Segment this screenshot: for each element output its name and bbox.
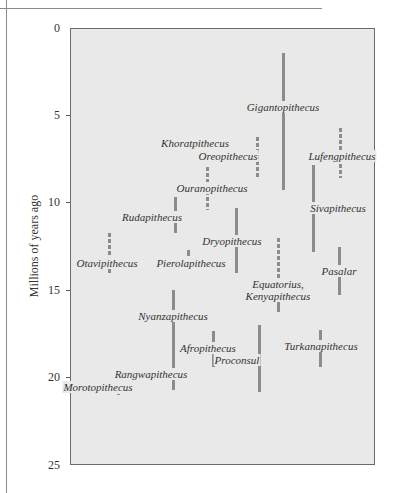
label-sivapithecus: Sivapithecus	[309, 202, 367, 214]
label-kenyapithecus: Kenyapithecus	[245, 290, 312, 302]
y-tick-label-20: 20	[48, 370, 60, 385]
label-gigantopithecus: Gigantopithecus	[246, 101, 321, 113]
label-khoratpithecus: Khoratpithecus	[160, 137, 230, 149]
label-otavipithecus: Otavipithecus	[75, 257, 138, 269]
page-top-rule	[0, 8, 322, 9]
y-tick-label-0: 0	[54, 21, 60, 36]
label-nyanzapithecus: Nyanzapithecus	[137, 310, 209, 322]
label-pierolapithecus: Pierolapithecus	[155, 257, 226, 269]
label-ouranopithecus: Ouranopithecus	[176, 182, 249, 194]
label-lufengpithecus: Lufengpithecus	[307, 150, 376, 162]
y-tick-label-15: 15	[48, 283, 60, 298]
y-tick-label-5: 5	[54, 108, 60, 123]
y-tick-label-10: 10	[48, 195, 60, 210]
label-proconsul: Proconsul	[214, 354, 261, 366]
label-dryopithecus: Dryopithecus	[201, 235, 262, 247]
y-axis-label: Millions of years ago	[27, 195, 42, 297]
label-oreopithecus: Oreopithecus	[198, 150, 259, 162]
label-equatorius: Equatorius,	[251, 278, 305, 290]
label-morotopithecus: Morotopithecus	[62, 381, 133, 393]
page-left-rule	[6, 0, 7, 493]
label-afropithecus: Afropithecus	[179, 342, 237, 354]
range-bar-gigantopithecus	[282, 53, 285, 190]
label-rudapithecus: Rudapithecus	[121, 211, 183, 223]
range-bar-pierolapithecus	[187, 250, 190, 256]
range-bar-equatorius-dashed	[277, 238, 280, 278]
label-turkanapithecus: Turkanapithecus	[283, 340, 358, 352]
label-pasalar: Pasalar	[321, 265, 358, 277]
y-tick-label-25: 25	[48, 458, 60, 473]
label-rangwapithecus: Rangwapithecus	[114, 368, 189, 380]
